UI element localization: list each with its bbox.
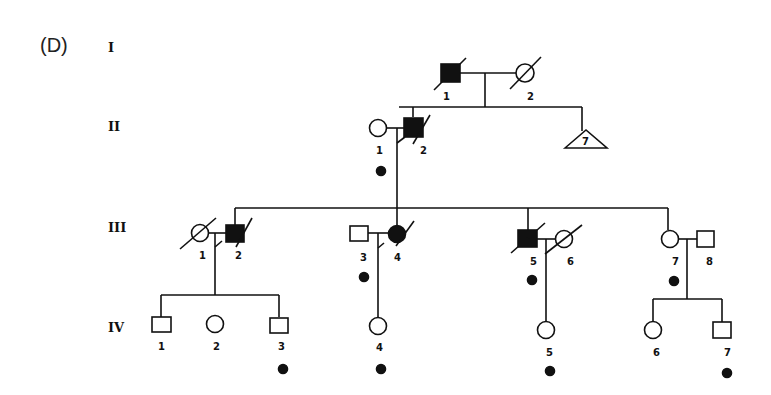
individual-label: 8 [706, 256, 713, 267]
individual-label: 3 [360, 252, 367, 263]
individual-iv-3-male [270, 318, 288, 333]
generation-label-ii: II [108, 119, 120, 134]
generation-iii: 1 2 3 4 5 6 7 8 [180, 208, 714, 322]
individual-iii-3-male [350, 226, 368, 241]
marker-dot [528, 276, 537, 285]
individual-ii-2-affected-male [404, 118, 423, 137]
marker-dot [377, 167, 386, 176]
panel-label: (D) [40, 34, 68, 56]
generation-iv: 1 2 3 4 5 6 7 [152, 295, 732, 378]
generation-label-iv: IV [108, 320, 125, 335]
marker-dot [279, 365, 288, 374]
sibship-count: 7 [582, 136, 589, 147]
individual-label: 6 [653, 347, 660, 358]
individual-label: 2 [420, 145, 427, 156]
individual-label: 7 [672, 256, 679, 267]
generation-ii: 1 2 7 [370, 115, 608, 208]
individual-iv-6-female [645, 322, 662, 339]
individual-label: 6 [567, 256, 574, 267]
individual-label: 1 [158, 341, 165, 352]
individual-label: 5 [546, 347, 553, 358]
individual-iii-8-male [697, 231, 714, 247]
individual-iii-7-female [662, 231, 679, 248]
generation-i: 1 2 [434, 57, 541, 107]
marker-dot [360, 273, 369, 282]
individual-label: 7 [724, 347, 731, 358]
generation-label-iii: III [108, 220, 126, 235]
individual-label: 2 [527, 91, 534, 102]
deceased-slash-tail [215, 241, 222, 247]
pedigree-chart: (D) I II III IV 1 2 1 2 7 [0, 0, 771, 395]
individual-iii-2-affected-male [226, 225, 244, 242]
deceased-slash-tail [378, 243, 384, 248]
individual-iv-7-male [713, 322, 731, 338]
marker-dot [723, 369, 732, 378]
individual-ii-1-female [370, 120, 387, 137]
marker-dot [670, 277, 679, 286]
individual-label: 1 [376, 145, 383, 156]
individual-iv-5-female [538, 322, 555, 339]
deceased-slash [434, 58, 466, 90]
generation-label-i: I [108, 40, 114, 55]
individual-label: 2 [213, 341, 220, 352]
individual-label: 3 [278, 341, 285, 352]
individual-iv-1-male [152, 317, 171, 332]
individual-iv-4-female [370, 318, 387, 335]
individual-iv-2-female [207, 316, 224, 333]
marker-dot [377, 365, 386, 374]
individual-label: 1 [443, 91, 450, 102]
deceased-slash-tail [397, 137, 405, 143]
individual-label: 4 [376, 342, 383, 353]
individual-label: 2 [235, 250, 242, 261]
individual-label: 5 [530, 256, 537, 267]
marker-dot [546, 367, 555, 376]
individual-iii-4-affected-female [389, 226, 406, 243]
individual-label: 1 [199, 250, 206, 261]
individual-label: 4 [394, 252, 401, 263]
